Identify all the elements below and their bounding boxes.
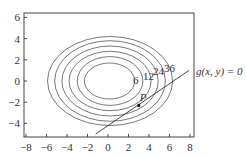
point-p <box>137 104 140 107</box>
contour-labels: 6122436 <box>133 62 176 86</box>
x-tick-label: −6 <box>41 141 53 153</box>
contour-ellipse <box>69 51 151 110</box>
constraint-label: g(x, y) = 0 <box>196 65 243 78</box>
x-tick-label: 4 <box>146 141 152 153</box>
x-tick-label: 2 <box>126 141 132 153</box>
x-tick-label: 0 <box>105 141 111 153</box>
contour-chart: 6420−2−4 −8−6−4−202468 6122436 P g(x, y)… <box>0 0 246 157</box>
y-tick-label: 2 <box>15 54 21 66</box>
contour-level-label: 24 <box>153 65 165 77</box>
y-tick-label: 4 <box>15 33 21 45</box>
x-tick-label: 6 <box>167 141 173 153</box>
y-tick-label: −2 <box>8 96 20 108</box>
y-tick-label: −4 <box>8 117 20 129</box>
x-tick-label: −8 <box>20 141 32 153</box>
plot-frame <box>24 13 194 137</box>
y-tick-label: 6 <box>15 11 21 23</box>
contour-ellipse <box>84 63 134 99</box>
contour-level-label: 6 <box>133 74 139 86</box>
x-tick-label: −4 <box>61 141 73 153</box>
x-tick-label: 8 <box>187 141 193 153</box>
y-tick-label: 0 <box>15 75 21 87</box>
x-tick-label: −2 <box>82 141 94 153</box>
point-label: P <box>139 91 147 103</box>
contour-level-label: 36 <box>164 62 176 74</box>
